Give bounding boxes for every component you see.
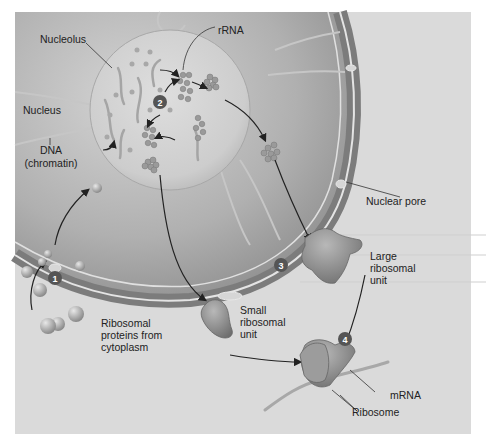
svg-text:3: 3 — [278, 261, 283, 271]
label-small-unit-1: Small — [240, 304, 266, 316]
label-nuclear-pore: Nuclear pore — [366, 195, 426, 207]
svg-text:1: 1 — [52, 274, 57, 284]
label-large-unit-2: ribosomal — [370, 262, 416, 274]
label-nucleolus: Nucleolus — [40, 33, 86, 45]
step-2-badge: 2 — [153, 95, 167, 109]
label-large-unit-3: unit — [370, 274, 387, 286]
ribosome-assembly-diagram: 1 2 3 4 Nucleolus rRNA Nucleus DNA (chro… — [0, 0, 486, 445]
label-large-unit-1: Large — [370, 250, 397, 262]
label-ribosome: Ribosome — [352, 406, 399, 418]
label-proteins-2: proteins from — [101, 329, 163, 341]
label-proteins-1: Ribosomal — [101, 317, 151, 329]
label-dna-chromatin: (chromatin) — [24, 157, 77, 169]
step-3-badge: 3 — [274, 258, 288, 272]
label-mrna: mRNA — [390, 389, 421, 401]
label-rrna: rRNA — [218, 24, 244, 36]
step-1-badge: 1 — [48, 271, 62, 285]
svg-text:2: 2 — [157, 98, 162, 108]
label-dna: DNA — [40, 144, 62, 156]
label-proteins-3: cytoplasm — [101, 341, 149, 353]
svg-text:4: 4 — [342, 335, 347, 345]
label-small-unit-2: ribosomal — [240, 316, 286, 328]
label-small-unit-3: unit — [240, 328, 257, 340]
step-4-badge: 4 — [338, 332, 352, 346]
label-nucleus: Nucleus — [23, 104, 61, 116]
